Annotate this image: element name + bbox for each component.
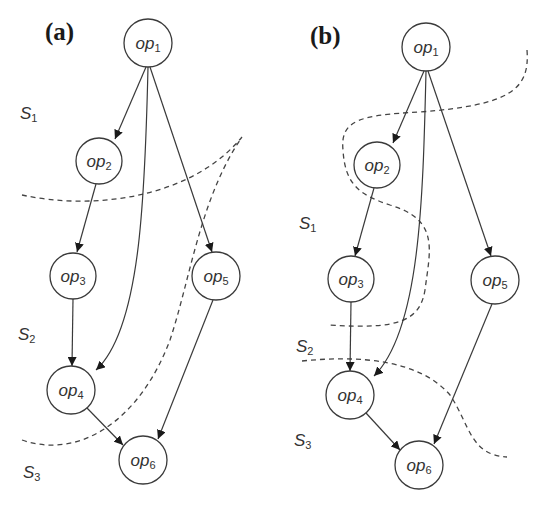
stage-label-s2: S2: [296, 337, 313, 357]
edge-op1-op5: [150, 67, 212, 252]
node-op6: op6: [119, 436, 167, 484]
panel-b: (b) op1 op2 op3 op4 op5: [294, 22, 527, 489]
edge-op1-op5: [428, 71, 491, 256]
stage-boundary-s1-s2: [22, 137, 242, 201]
node-op6: op6: [395, 441, 443, 489]
edge-op1-op4: [96, 67, 148, 370]
stage-label-s3: S3: [23, 463, 40, 483]
node-op2: op2: [76, 138, 122, 184]
edge-op1-op4: [374, 71, 426, 376]
panel-label-b: (b): [310, 22, 341, 50]
node-op4: op4: [47, 366, 95, 414]
panel-label-a: (a): [45, 18, 74, 46]
node-op3: op3: [328, 256, 374, 302]
stage-label-s1: S1: [299, 214, 316, 234]
edge-op3-op4: [72, 299, 73, 366]
node-op5: op5: [192, 252, 240, 300]
edge-op1-op2: [393, 71, 424, 143]
edge-op5-op6: [158, 300, 213, 439]
node-op1: op1: [124, 19, 172, 67]
edge-op2-op3: [77, 184, 96, 252]
edge-op1-op2: [115, 67, 146, 139]
node-op5: op5: [471, 256, 519, 304]
stage-label-s2: S2: [18, 325, 35, 345]
edge-op4-op6: [366, 413, 400, 450]
node-op2: op2: [354, 142, 400, 188]
node-op3: op3: [50, 253, 96, 299]
stage-label-s3: S3: [294, 431, 311, 451]
edge-op2-op3: [355, 188, 374, 256]
node-op1: op1: [402, 23, 450, 71]
operator-graph-figure: (a) op1 op2 op3 op4 op5: [0, 0, 547, 514]
node-op4: op4: [326, 371, 374, 419]
edge-op3-op4: [350, 302, 351, 371]
edge-op4-op6: [87, 408, 123, 445]
stage-label-s1: S1: [20, 104, 37, 124]
panel-a: (a) op1 op2 op3 op4 op5: [18, 18, 242, 484]
edge-op5-op6: [434, 304, 492, 444]
